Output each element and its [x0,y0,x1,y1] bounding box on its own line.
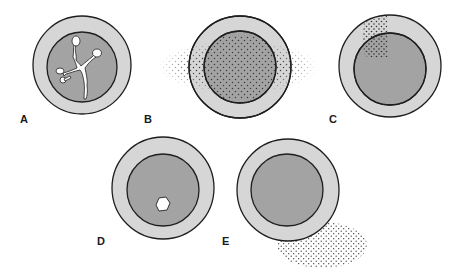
panel-label: E [222,235,229,247]
panel-label: B [144,113,152,125]
inner-core [251,154,323,226]
panel-label: C [329,113,337,125]
panel-a: A [20,16,131,125]
panel-c: C [329,15,441,125]
inner-core [127,154,199,226]
stippled-infiltrate [155,35,320,100]
panel-d: D [97,137,214,247]
hexagonal-cavity [156,197,170,211]
panel-label: A [20,113,28,125]
panel-b: B [144,16,320,125]
panel-e: E [222,139,367,268]
diagram-canvas: A B C D E [0,0,459,273]
panel-label: D [97,235,105,247]
